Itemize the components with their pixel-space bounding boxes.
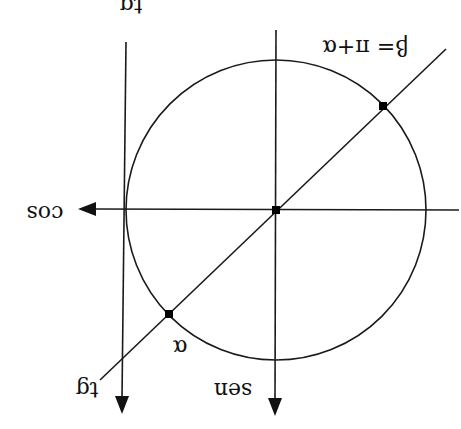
sen-axis (275, 30, 276, 400)
tg-axis-label-top: tg (120, 0, 143, 18)
beta-point (379, 102, 387, 110)
trig-circle-diagram: sen cos tg tg α β= π+α (0, 0, 461, 429)
alpha-label: α (172, 335, 187, 360)
sen-axis-label: sen (214, 378, 252, 403)
tg-axis (122, 42, 126, 398)
tg-axis-label-bottom: tg (76, 377, 99, 402)
tg-axis-arrow-icon (115, 396, 129, 414)
alpha-point (165, 310, 173, 318)
angle-line (100, 49, 446, 380)
cos-axis-label: cos (27, 201, 64, 226)
beta-label: β= π+α (322, 35, 408, 60)
diagram-canvas: sen cos tg tg α β= π+α (0, 0, 461, 429)
cos-axis-arrow-icon (78, 202, 96, 216)
origin-point (272, 206, 280, 214)
sen-axis-arrow-icon (268, 398, 282, 416)
